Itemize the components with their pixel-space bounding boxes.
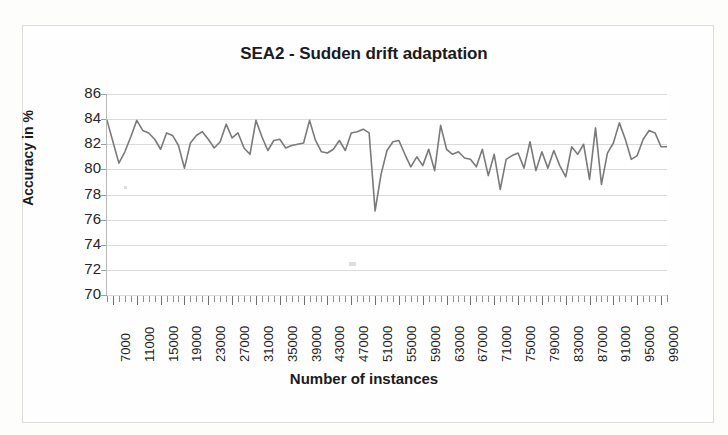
x-tick-label-83000: 83000 <box>571 306 586 362</box>
x-tick-6000 <box>107 296 108 302</box>
y-axis-tick-labels: 707274767880828486 <box>55 94 101 295</box>
x-tick-32000 <box>262 296 263 302</box>
x-tick-68000 <box>476 296 477 302</box>
x-tick-18000 <box>178 296 179 302</box>
x-tick-34000 <box>274 296 275 302</box>
x-tick-41000 <box>316 296 317 302</box>
x-tick-71000 <box>494 296 495 305</box>
x-tick-label-99000: 99000 <box>666 306 681 362</box>
x-tick-37000 <box>292 296 293 302</box>
x-tick-95000 <box>637 296 638 305</box>
y-tick-mark-82 <box>101 144 106 145</box>
x-tick-96000 <box>643 296 644 302</box>
x-tick-70000 <box>488 296 489 302</box>
x-tick-73000 <box>506 296 507 302</box>
x-tick-93000 <box>625 296 626 302</box>
y-tick-label-70: 70 <box>61 285 101 302</box>
x-tick-label-19000: 19000 <box>189 306 204 362</box>
x-tick-35000 <box>280 296 281 305</box>
x-tick-89000 <box>601 296 602 302</box>
x-tick-100000 <box>667 296 668 302</box>
x-tick-14000 <box>155 296 156 302</box>
x-tick-80000 <box>548 296 549 302</box>
y-tick-label-78: 78 <box>61 185 101 202</box>
x-tick-26000 <box>226 296 227 302</box>
x-tick-69000 <box>482 296 483 302</box>
x-tick-36000 <box>286 296 287 302</box>
x-tick-label-75000: 75000 <box>523 306 538 362</box>
x-tick-23000 <box>208 296 209 305</box>
x-tick-12000 <box>143 296 144 302</box>
x-tick-87000 <box>590 296 591 305</box>
x-tick-label-47000: 47000 <box>356 306 371 362</box>
y-tick-label-74: 74 <box>61 235 101 252</box>
x-tick-75000 <box>518 296 519 305</box>
scan-speck <box>124 186 127 189</box>
x-tick-76000 <box>524 296 525 302</box>
x-tick-7000 <box>113 296 114 305</box>
x-tick-90000 <box>607 296 608 302</box>
x-tick-19000 <box>184 296 185 305</box>
x-tick-92000 <box>619 296 620 302</box>
x-tick-8000 <box>119 296 120 302</box>
x-tick-98000 <box>655 296 656 302</box>
x-tick-21000 <box>196 296 197 302</box>
x-tick-label-11000: 11000 <box>142 306 157 362</box>
x-tick-38000 <box>298 296 299 302</box>
x-tick-label-55000: 55000 <box>404 306 419 362</box>
x-tick-77000 <box>530 296 531 302</box>
x-tick-91000 <box>613 296 614 305</box>
x-tick-label-91000: 91000 <box>618 306 633 362</box>
x-tick-94000 <box>631 296 632 302</box>
x-tick-50000 <box>369 296 370 302</box>
x-tick-49000 <box>363 296 364 302</box>
x-tick-43000 <box>327 296 328 305</box>
y-tick-label-80: 80 <box>61 159 101 176</box>
x-tick-65000 <box>458 296 459 302</box>
x-tick-42000 <box>321 296 322 302</box>
x-tick-25000 <box>220 296 221 302</box>
x-tick-label-59000: 59000 <box>428 306 443 362</box>
y-tick-mark-80 <box>101 169 106 170</box>
x-tick-58000 <box>417 296 418 302</box>
y-tick-mark-74 <box>101 245 106 246</box>
x-tick-62000 <box>441 296 442 302</box>
y-tick-mark-70 <box>101 295 106 296</box>
x-tick-11000 <box>137 296 138 305</box>
x-tick-15000 <box>161 296 162 305</box>
y-tick-mark-76 <box>101 220 106 221</box>
data-series-line <box>107 94 667 295</box>
x-tick-86000 <box>584 296 585 302</box>
x-tick-16000 <box>167 296 168 302</box>
x-tick-label-27000: 27000 <box>237 306 252 362</box>
x-tick-67000 <box>470 296 471 305</box>
x-tick-44000 <box>333 296 334 302</box>
x-tick-27000 <box>232 296 233 305</box>
x-tick-83000 <box>566 296 567 305</box>
x-tick-label-79000: 79000 <box>547 306 562 362</box>
y-tick-label-72: 72 <box>61 260 101 277</box>
x-tick-13000 <box>149 296 150 302</box>
x-tick-24000 <box>214 296 215 302</box>
x-tick-79000 <box>542 296 543 305</box>
series-accuracy-line <box>107 120 667 210</box>
x-tick-51000 <box>375 296 376 305</box>
y-tick-label-86: 86 <box>61 84 101 101</box>
x-tick-29000 <box>244 296 245 302</box>
x-tick-85000 <box>578 296 579 302</box>
y-tick-mark-72 <box>101 270 106 271</box>
x-tick-45000 <box>339 296 340 302</box>
x-tick-59000 <box>423 296 424 305</box>
y-axis-title: Accuracy in % <box>20 83 36 233</box>
y-tick-label-84: 84 <box>61 109 101 126</box>
x-tick-52000 <box>381 296 382 302</box>
y-tick-label-76: 76 <box>61 210 101 227</box>
x-tick-84000 <box>572 296 573 302</box>
x-tick-31000 <box>256 296 257 305</box>
x-tick-66000 <box>464 296 465 302</box>
x-tick-22000 <box>202 296 203 302</box>
x-tick-label-15000: 15000 <box>166 306 181 362</box>
x-tick-82000 <box>560 296 561 302</box>
x-tick-61000 <box>435 296 436 302</box>
x-tick-label-87000: 87000 <box>595 306 610 362</box>
